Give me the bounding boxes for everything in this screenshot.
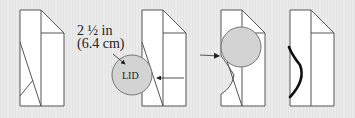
lid-label: LID (122, 70, 139, 81)
folding-diagram: LID 2 ½ in (6.4 cm) (0, 0, 355, 118)
measurement-line2: (6.4 cm) (77, 36, 125, 52)
lid-circle-placed (221, 27, 261, 67)
